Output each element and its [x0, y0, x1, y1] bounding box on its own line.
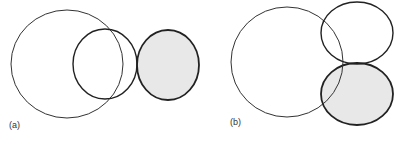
panel-a-label: (a): [9, 120, 20, 130]
middle-circle: [73, 29, 137, 99]
panel-b: [231, 2, 393, 125]
shaded-circle: [321, 63, 393, 125]
top-circle: [321, 2, 393, 64]
diagram-canvas: [0, 0, 402, 144]
shaded-circle: [137, 30, 199, 100]
panel-a: [11, 10, 199, 118]
large-circle: [11, 10, 123, 118]
panel-b-label: (b): [230, 117, 241, 127]
